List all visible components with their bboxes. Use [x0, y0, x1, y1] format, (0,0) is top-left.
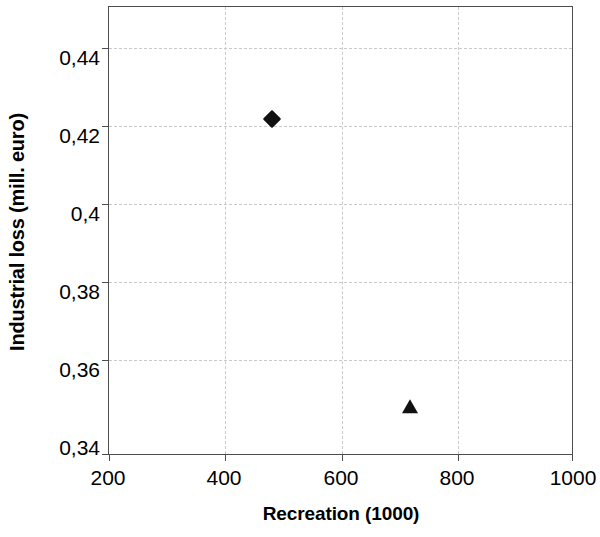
- x-axis-title: Recreation (1000): [108, 503, 574, 525]
- y-tick-label-0: 0,34: [8, 436, 100, 460]
- y-tick-label-5: 0,44: [8, 46, 100, 70]
- data-point-triangle: [402, 399, 418, 413]
- x-tick-label-3: 800: [407, 466, 507, 490]
- y-tick-038: [102, 282, 109, 283]
- y-tick-034: [102, 454, 109, 455]
- gridline-horizontal-042: [109, 126, 572, 127]
- scatter-chart: Industrial loss (mill. euro) 0,34 0,36 0…: [0, 0, 600, 537]
- plot-area: [108, 6, 573, 455]
- y-tick-label-1: 0,36: [8, 358, 100, 382]
- gridline-horizontal-040: [109, 204, 572, 205]
- gridline-horizontal-038: [109, 282, 572, 283]
- gridline-horizontal-036: [109, 360, 572, 361]
- y-tick-044: [102, 48, 109, 49]
- x-tick-label-2: 600: [291, 466, 391, 490]
- y-axis-title: Industrial loss (mill. euro): [0, 2, 34, 462]
- x-tick-800: [458, 454, 459, 461]
- x-tick-label-1: 400: [174, 466, 274, 490]
- x-tick-600: [342, 454, 343, 461]
- y-tick-label-3: 0,4: [8, 202, 100, 226]
- y-tick-042: [102, 126, 109, 127]
- x-tick-1000: [572, 454, 573, 461]
- gridline-vertical-800: [458, 7, 459, 454]
- y-tick-label-4: 0,42: [8, 124, 100, 148]
- x-tick-label-0: 200: [58, 466, 158, 490]
- y-tick-040: [102, 204, 109, 205]
- x-tick-400: [225, 454, 226, 461]
- gridline-vertical-400: [225, 7, 226, 454]
- y-tick-036: [102, 360, 109, 361]
- x-tick-label-4: 1000: [523, 466, 600, 490]
- x-tick-200: [109, 454, 110, 461]
- y-tick-label-2: 0,38: [8, 280, 100, 304]
- gridline-horizontal-044: [109, 48, 572, 49]
- gridline-vertical-600: [342, 7, 343, 454]
